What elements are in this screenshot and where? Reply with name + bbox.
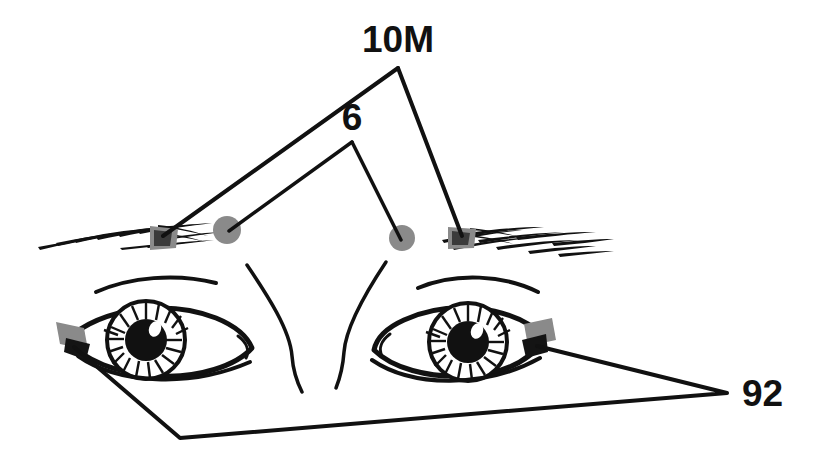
iris-right (426, 303, 510, 381)
eye-electrode-diagram: 10M 6 92 (0, 0, 828, 460)
electrode-brow-right-inner (389, 225, 415, 251)
electrode-brow-left-inner (213, 216, 241, 244)
label-92: 92 (742, 373, 783, 414)
label-10m: 10M (362, 19, 434, 60)
figure-root: 10M 6 92 (0, 0, 828, 460)
electrode-brow-right-outer (448, 227, 476, 249)
label-6: 6 (342, 97, 363, 138)
iris-left (104, 301, 188, 379)
